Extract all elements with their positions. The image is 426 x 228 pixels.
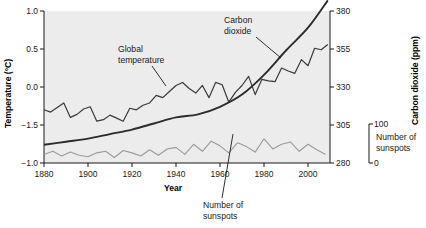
left-axis-ticks: 1.00.50.0−1.5−1.0 [21, 6, 44, 168]
right-axis-ticks: 380355330305280 [330, 6, 350, 168]
left-tick-label: −1.5 [21, 120, 38, 130]
sunspot-axis-label-line2: sunspots [376, 143, 410, 153]
right-tick-label: 280 [336, 158, 350, 168]
bottom-tick-label: 1920 [123, 169, 142, 179]
bottom-tick-label: 1900 [79, 169, 98, 179]
left-tick-label: 0.0 [26, 82, 38, 92]
left-axis-title: Temperature (°C) [3, 59, 13, 128]
left-tick-label: 1.0 [26, 6, 38, 16]
bottom-tick-label: 1940 [167, 169, 186, 179]
right-tick-label: 355 [336, 44, 350, 54]
annotation-global-temperature-line2: temperature [118, 55, 165, 65]
right-tick-label: 305 [336, 120, 350, 130]
sunspot-tick-0: 0 [374, 158, 379, 168]
bottom-tick-label: 2000 [299, 169, 318, 179]
bottom-tick-label: 1980 [255, 169, 274, 179]
left-tick-label: 0.5 [26, 44, 38, 54]
annotation-carbon-dioxide-line1: Carbon [224, 15, 252, 25]
annotation-carbon-dioxide-line2: dioxide [224, 26, 251, 36]
annotation-number-of-sunspots-line2: sunspots [203, 211, 237, 221]
annotation-global-temperature-line1: Global [118, 44, 143, 54]
sunspot-tick-100: 100 [374, 119, 388, 129]
annotation-number-of-sunspots-line1: Number of [203, 200, 244, 210]
right-tick-label: 330 [336, 82, 350, 92]
bottom-tick-label: 1880 [35, 169, 54, 179]
bottom-axis-title: Year [164, 183, 183, 193]
climate-chart-figure: 1.00.50.0−1.5−1.0 380355330305280 188019… [0, 0, 426, 228]
sunspot-axis-label-line1: Number of [376, 132, 417, 142]
right-axis-title: Carbon dioxide (ppm) [410, 36, 420, 125]
right-tick-label: 380 [336, 6, 350, 16]
bottom-axis-ticks: 1880190019201940196019802000 [35, 163, 318, 179]
left-tick-label: −1.0 [21, 158, 38, 168]
